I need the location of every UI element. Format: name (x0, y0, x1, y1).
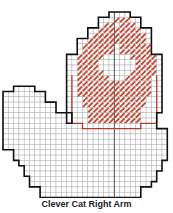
grid-cell (130, 123, 135, 128)
grid-cell (136, 155, 141, 160)
grid-cell (19, 150, 24, 155)
grid-cell (83, 182, 88, 187)
grid-cell (151, 102, 156, 107)
grid-cell (45, 166, 50, 171)
grid-cell (114, 23, 119, 28)
grid-cell (109, 145, 114, 150)
grid-cell (19, 139, 24, 144)
grid-cell (125, 155, 130, 160)
grid-cell (125, 150, 130, 155)
grid-cell (35, 155, 40, 160)
grid-cell (8, 118, 13, 123)
grid-cell (136, 176, 141, 181)
grid-cell (56, 160, 61, 165)
grid-cell (93, 129, 98, 134)
grid-cell (104, 182, 109, 187)
grid-cell (72, 92, 77, 97)
grid-cell (45, 134, 50, 139)
grid-cell (8, 129, 13, 134)
grid-cell (24, 97, 29, 102)
grid-cell (35, 150, 40, 155)
grid-cell (83, 176, 88, 181)
grid-cell (19, 92, 24, 97)
grid-cell (109, 123, 114, 128)
grid-cell (61, 166, 66, 171)
grid-cell (114, 70, 119, 75)
grid-cell (98, 139, 103, 144)
grid-cell (40, 150, 45, 155)
grid-cell (146, 102, 151, 107)
grid-cell (56, 166, 61, 171)
grid-cell (77, 97, 82, 102)
grid-cell (40, 113, 45, 118)
grid-cell (114, 65, 119, 70)
grid-cell (8, 123, 13, 128)
grid-cell (72, 139, 77, 144)
grid-cell (8, 134, 13, 139)
grid-cell (8, 107, 13, 112)
grid-cell (98, 129, 103, 134)
grid-cell (114, 44, 119, 49)
grid-cell (104, 139, 109, 144)
grid-cell (104, 54, 109, 59)
grid-cell (136, 139, 141, 144)
grid-cell (67, 155, 72, 160)
grid-cell (146, 134, 151, 139)
grid-cell (45, 113, 50, 118)
grid-cell (83, 123, 88, 128)
grid-cell (98, 155, 103, 160)
grid-cell (35, 145, 40, 150)
grid-cell (72, 155, 77, 160)
grid-cell (72, 70, 77, 75)
grid-cell (24, 139, 29, 144)
grid-cell (98, 134, 103, 139)
grid-cell (8, 139, 13, 144)
grid-cell (104, 176, 109, 181)
grid-cell (88, 155, 93, 160)
grid-cell (83, 129, 88, 134)
grid-cell (104, 65, 109, 70)
grid-cell (24, 113, 29, 118)
grid-cell (109, 54, 114, 59)
grid-cell (125, 176, 130, 181)
grid-cell (114, 123, 119, 128)
grid-cell (72, 176, 77, 181)
grid-cell (109, 150, 114, 155)
grid-cell (40, 166, 45, 171)
grid-cell (19, 107, 24, 112)
grid-cell (146, 171, 151, 176)
grid-cell (83, 166, 88, 171)
grid-cell (104, 129, 109, 134)
grid-cell (45, 150, 50, 155)
grid-cell (98, 60, 103, 65)
grid-cell (130, 155, 135, 160)
grid-cell (40, 139, 45, 144)
grid-cell (104, 160, 109, 165)
grid-cell (56, 134, 61, 139)
grid-cell (88, 171, 93, 176)
grid-cell (130, 176, 135, 181)
grid-cell (109, 160, 114, 165)
grid-cell (98, 176, 103, 181)
grid-cell (30, 145, 35, 150)
grid-cell (157, 150, 162, 155)
grid-cell (120, 65, 125, 70)
grid-cell (93, 155, 98, 160)
grid-cell (83, 139, 88, 144)
grid-cell (125, 145, 130, 150)
grid-cell (104, 150, 109, 155)
grid-cell (93, 160, 98, 165)
grid-cell (109, 70, 114, 75)
grid-cell (67, 134, 72, 139)
grid-cell (14, 102, 19, 107)
grid-cell (93, 166, 98, 171)
grid-cell (151, 160, 156, 165)
grid-cell (19, 134, 24, 139)
grid-cell (93, 182, 98, 187)
grid-cell (77, 166, 82, 171)
grid-cell (141, 118, 146, 123)
grid-cell (8, 113, 13, 118)
grid-cell (35, 139, 40, 144)
grid-cell (83, 118, 88, 123)
grid-cell (136, 171, 141, 176)
